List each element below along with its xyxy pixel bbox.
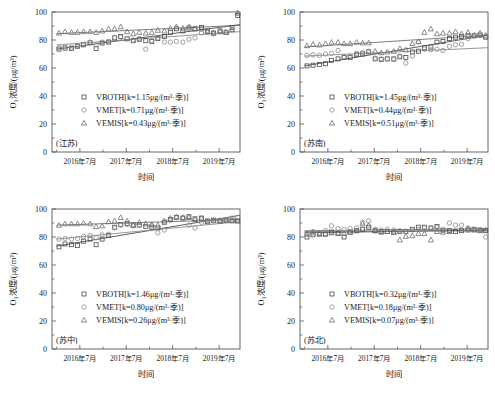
legend-marker-vmet <box>82 305 86 309</box>
legend-marker-vboth <box>82 95 86 99</box>
data-point <box>149 30 154 35</box>
data-point <box>75 221 80 226</box>
y-tick-label: 0 <box>43 148 47 157</box>
data-point <box>87 29 92 34</box>
data-point <box>100 28 105 33</box>
x-tick-label: 2016年7月 <box>312 157 344 166</box>
trend-line-vmet <box>305 48 488 56</box>
data-point <box>323 41 328 46</box>
data-point <box>416 231 421 236</box>
x-tick-label: 2018年7月 <box>404 157 436 166</box>
data-point <box>143 30 148 35</box>
x-tick-label: 2017年7月 <box>110 157 142 166</box>
data-point <box>56 30 61 35</box>
y-tick-label: 20 <box>287 317 295 326</box>
y-axis-title: O₃浓度/(μg/m³) <box>8 252 18 305</box>
data-point <box>63 242 67 246</box>
data-point <box>348 54 352 58</box>
y-tick-label: 80 <box>39 36 47 45</box>
data-point <box>168 40 172 44</box>
data-point <box>187 37 191 41</box>
y-tick-label: 40 <box>287 289 295 298</box>
data-series-vemis <box>56 10 240 36</box>
legend-marker-vboth <box>330 292 334 296</box>
data-point <box>93 224 98 229</box>
data-point <box>137 223 141 227</box>
legend-marker-vemis <box>329 317 334 322</box>
data-point <box>144 224 148 228</box>
data-point <box>181 40 185 44</box>
data-point <box>155 223 160 228</box>
x-tick-label: 2017年7月 <box>358 354 390 363</box>
data-point <box>441 48 445 52</box>
data-point <box>118 215 123 220</box>
data-point <box>311 53 315 57</box>
x-tick-label: 2016年7月 <box>64 157 96 166</box>
legend-label-vboth: VBOTH[k=1.15μg/(m³·季)] <box>96 92 189 102</box>
y-tick-label: 60 <box>287 64 295 73</box>
trend-line-vboth <box>305 35 488 66</box>
legend-label-vmet: VMET[k=0.71μg/(m³·季)] <box>96 105 184 115</box>
y-tick-label: 40 <box>287 92 295 101</box>
legend-marker-vemis <box>81 120 86 125</box>
chart-panel-jiangsu: 0204060801002016年7月2017年7月2018年7月2019年7月… <box>0 0 247 196</box>
data-point <box>162 40 166 44</box>
x-tick-label: 2017年7月 <box>358 157 390 166</box>
data-point <box>155 28 160 33</box>
data-point <box>106 219 111 224</box>
y-tick-label: 60 <box>39 261 47 270</box>
x-axis-title: 时间 <box>138 172 154 182</box>
data-point <box>193 226 197 230</box>
y-tick-label: 20 <box>39 317 47 326</box>
data-point <box>360 40 365 45</box>
data-point <box>137 220 142 225</box>
data-point <box>428 26 433 31</box>
legend-marker-vmet <box>330 305 334 309</box>
data-point <box>112 218 117 223</box>
data-point <box>410 41 415 46</box>
data-point <box>305 53 309 57</box>
data-point <box>310 42 315 47</box>
data-point <box>87 221 92 226</box>
legend-marker-vemis <box>329 120 334 125</box>
y-tick-label: 20 <box>287 120 295 129</box>
y-axis-title: O₃浓度/(μg/m³) <box>8 55 18 108</box>
legend-label-vmet: VMET[k=0.44μg/(m³·季)] <box>344 105 432 115</box>
legend-marker-vemis <box>81 317 86 322</box>
panel-tag-suzhong: (苏中) <box>56 335 78 345</box>
y-tick-label: 20 <box>39 120 47 129</box>
data-point <box>447 44 451 48</box>
data-point <box>329 224 333 228</box>
trend-line-vboth <box>57 25 240 49</box>
y-tick-label: 60 <box>39 64 47 73</box>
y-tick-label: 80 <box>287 36 295 45</box>
x-tick-label: 2016年7月 <box>64 354 96 363</box>
plot-frame <box>52 209 240 349</box>
data-point <box>63 45 67 49</box>
data-point <box>348 41 353 46</box>
data-point <box>410 233 415 238</box>
x-tick-label: 2019年7月 <box>203 157 235 166</box>
data-point <box>410 54 414 58</box>
y-tick-label: 100 <box>35 205 47 214</box>
legend-marker-vboth <box>82 292 86 296</box>
data-point <box>69 30 74 35</box>
data-point <box>459 31 464 36</box>
panel-tag-subei: (苏北) <box>304 335 326 345</box>
panel-tag-sunan: (苏南) <box>304 138 326 148</box>
data-point <box>112 26 117 31</box>
data-point <box>81 29 86 34</box>
x-tick-label: 2017年7月 <box>110 354 142 363</box>
data-point <box>410 50 414 54</box>
legend-label-vboth: VBOTH[k=0.32μg/(m³·季)] <box>344 289 437 299</box>
data-point <box>422 231 427 236</box>
legend-label-vmet: VMET[k=0.80μg/(m³·季)] <box>96 302 184 312</box>
data-point <box>311 63 315 67</box>
y-tick-label: 0 <box>291 148 295 157</box>
data-point <box>385 57 389 61</box>
data-point <box>125 29 130 34</box>
y-tick-label: 100 <box>283 205 295 214</box>
x-tick-label: 2019年7月 <box>451 157 483 166</box>
x-axis-title: 时间 <box>386 369 402 379</box>
data-point <box>428 237 433 242</box>
